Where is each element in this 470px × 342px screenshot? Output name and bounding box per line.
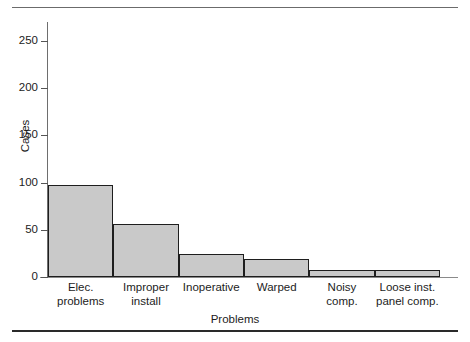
y-tick-label: 250 [4, 35, 38, 47]
bar [375, 270, 440, 277]
y-tick-mark [41, 277, 48, 278]
x-category-label-line: install [96, 294, 195, 308]
y-tick-label: 50 [4, 224, 38, 236]
bar [244, 259, 309, 277]
bar-chart-figure: 050100150200250 Cases Elec.problemsImpro… [0, 0, 470, 342]
y-axis-title: Cases [19, 106, 31, 166]
bar-series [48, 22, 440, 277]
y-tick-mark [41, 41, 48, 42]
bar [179, 254, 244, 277]
x-category-label: Loose inst.panel comp. [358, 280, 457, 308]
bar [48, 185, 113, 277]
bar [113, 224, 178, 277]
x-axis-title: Problems [0, 313, 470, 325]
page-rule-bottom [12, 330, 458, 332]
page-rule-top [12, 7, 458, 8]
bar [309, 270, 374, 277]
y-tick-mark [41, 183, 48, 184]
x-category-label-line: panel comp. [358, 294, 457, 308]
y-tick-mark [41, 88, 48, 89]
y-tick-label: 100 [4, 177, 38, 189]
y-tick-label: 200 [4, 82, 38, 94]
y-tick-mark [41, 135, 48, 136]
x-category-label-line: Loose inst. [358, 280, 457, 294]
x-axis-line [40, 277, 458, 278]
y-tick-mark [41, 230, 48, 231]
